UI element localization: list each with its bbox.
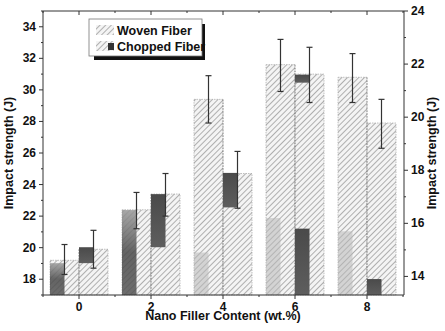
x-tick-label: 0 bbox=[76, 300, 83, 314]
bar-woven-inner bbox=[122, 210, 137, 295]
x-axis-title: Nano Filler Content (wt.%) bbox=[145, 309, 301, 323]
y-axis-left-title: Impact strength (J) bbox=[2, 97, 16, 210]
y-left-tick-label: 30 bbox=[23, 83, 37, 97]
bar-chopped-inner bbox=[295, 229, 310, 295]
y-left-tick-label: 26 bbox=[23, 146, 37, 160]
y-left-tick-label: 22 bbox=[23, 209, 37, 223]
bar-chopped-inner bbox=[79, 247, 94, 263]
bar-group-4 bbox=[194, 76, 252, 295]
bar-woven-inner bbox=[50, 263, 65, 295]
bar-chopped-inner bbox=[223, 173, 238, 208]
bar-group-2 bbox=[122, 174, 180, 295]
bar-woven-inner bbox=[194, 253, 209, 295]
bar-chopped-inner bbox=[151, 194, 166, 247]
y-right-tick-label: 18 bbox=[411, 163, 425, 177]
bar-woven-inner bbox=[266, 218, 281, 295]
y-left-tick-label: 32 bbox=[23, 51, 37, 65]
x-tick-label: 8 bbox=[364, 300, 371, 314]
y-axis-right-title: Impact strength (J) bbox=[425, 97, 439, 210]
bar-group-8 bbox=[338, 54, 396, 295]
y-left-tick-label: 18 bbox=[23, 272, 37, 286]
y-left-tick-label: 24 bbox=[23, 178, 37, 192]
y-left-tick-label: 28 bbox=[23, 114, 37, 128]
bar-group-6 bbox=[266, 39, 324, 295]
bar-chopped-inner bbox=[295, 75, 310, 83]
svg-text:Woven Fiber: Woven Fiber bbox=[117, 24, 192, 38]
svg-text:Chopped Fiber: Chopped Fiber bbox=[117, 40, 205, 54]
bar-chopped-inner bbox=[367, 279, 382, 295]
y-left-tick-label: 34 bbox=[23, 20, 37, 34]
y-right-tick-label: 14 bbox=[411, 269, 425, 283]
impact-strength-bar-chart: 18202224262830323414161820222402468 Nano… bbox=[0, 0, 445, 331]
legend-swatch-chopped-dark bbox=[108, 43, 114, 50]
y-left-tick-label: 20 bbox=[23, 241, 37, 255]
legend-swatch-woven bbox=[96, 25, 114, 35]
bar-woven-inner bbox=[338, 231, 353, 295]
y-right-tick-label: 20 bbox=[411, 110, 425, 124]
bars-layer bbox=[50, 39, 396, 295]
y-right-tick-label: 22 bbox=[411, 57, 425, 71]
legend: Woven Fiber Chopped Fiber bbox=[89, 19, 205, 60]
bar-group-0 bbox=[50, 230, 108, 295]
y-right-tick-label: 24 bbox=[411, 4, 425, 18]
y-right-tick-label: 16 bbox=[411, 216, 425, 230]
